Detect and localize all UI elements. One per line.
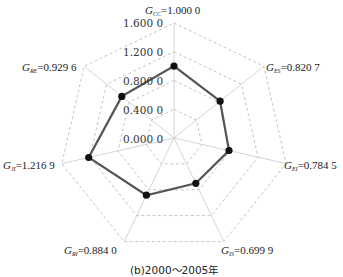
marker-ei [225,147,232,154]
tick-0800: 0.800 0 [123,75,163,87]
radar-chart [0,0,343,277]
axes [62,23,286,242]
label-gji: GJI=1.216 9 [3,159,55,175]
marker-es [217,98,224,105]
marker-ji [85,154,92,161]
marker-cc [170,63,177,70]
marker-re [118,93,125,100]
tick-0000: 0.000 0 [123,133,163,145]
label-gri: GRI=0.884 0 [64,244,117,260]
tick-1200: 1.200 0 [123,46,163,58]
chart-caption: (b)2000～2005年 [130,262,218,277]
label-ges: GES=0.820 7 [266,61,320,77]
marker-ri [143,192,150,199]
tick-0400: 0.400 0 [123,104,163,116]
label-gei: GEI=0.784 5 [284,159,337,175]
marker-is [192,180,199,187]
label-gcc: GCC=1.000 0 [145,4,200,20]
label-gis: GIS=0.699 9 [221,244,273,260]
label-gre: GRE=0.929 6 [22,61,77,77]
